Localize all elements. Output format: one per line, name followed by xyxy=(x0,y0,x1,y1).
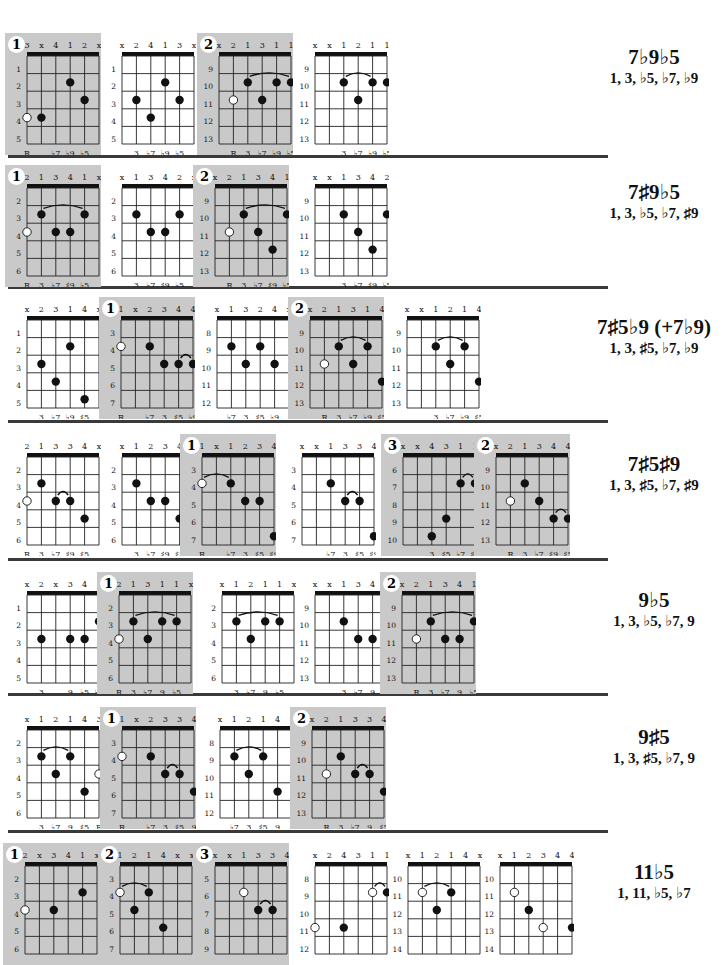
nut-bar xyxy=(315,862,387,866)
finger-dot xyxy=(370,532,376,540)
finger-dot xyxy=(270,360,278,368)
fret-number: 5 xyxy=(16,518,21,527)
finger-label: x xyxy=(39,41,44,50)
chord-diagram: xx12119101112133♭7♭9♭5 xyxy=(293,33,389,155)
finger-dot xyxy=(245,770,253,778)
finger-label: 2 xyxy=(39,580,44,589)
finger-dot xyxy=(52,377,60,385)
fret-number: 4 xyxy=(16,117,21,126)
finger-label: 3 xyxy=(53,442,58,451)
finger-label: 4 xyxy=(565,442,570,451)
finger-label: x xyxy=(215,305,220,314)
fret-number: 4 xyxy=(111,117,116,126)
fret-number: 7 xyxy=(291,536,296,545)
chord-diagram: 21214xx34567 xyxy=(98,843,194,965)
chord-formula: 1, 11, ♭5, ♭7 xyxy=(584,884,724,902)
finger-label: x xyxy=(400,580,405,589)
finger-label: 4 xyxy=(341,851,346,860)
fret-number: 10 xyxy=(391,346,401,355)
interval-label: 3 xyxy=(39,550,44,556)
finger-dot xyxy=(456,479,464,487)
finger-label: 1 xyxy=(119,715,124,724)
finger-dot xyxy=(161,78,169,86)
fret-number: 3 xyxy=(14,892,19,901)
finger-dot xyxy=(244,78,252,86)
finger-dot xyxy=(147,113,155,121)
interval-label: 3 xyxy=(245,149,250,155)
finger-label: x xyxy=(37,851,42,860)
interval-label: R xyxy=(413,688,420,694)
finger-dot xyxy=(355,497,363,505)
finger-label: 1 xyxy=(131,580,136,589)
interval-label: ♯5 xyxy=(255,550,264,556)
chord-diagram: 2x21341910111213R3♭7♯9♭5 xyxy=(193,165,289,287)
finger-label: 1 xyxy=(82,173,87,182)
fret-number: 6 xyxy=(392,466,397,475)
interval-label: 3 xyxy=(428,688,433,694)
fret-number: 13 xyxy=(484,927,494,936)
finger-dot xyxy=(37,113,45,121)
finger-label: x xyxy=(25,305,30,314)
finger-label: 1 xyxy=(117,851,122,860)
chord-diagram: 2x21314910111213R3♭7♭9♯5 xyxy=(288,297,384,419)
fret-number: 5 xyxy=(111,135,116,144)
root-dot xyxy=(23,113,31,121)
finger-dot xyxy=(256,342,264,350)
finger-label: 3 xyxy=(68,580,73,589)
interval-label: R xyxy=(199,550,206,556)
fret-number: 4 xyxy=(109,892,114,901)
finger-dot xyxy=(159,923,167,931)
finger-label: 3 xyxy=(351,305,356,314)
fret-number: 5 xyxy=(16,135,21,144)
interval-label: 3 xyxy=(336,413,341,419)
fret-number: 11 xyxy=(299,232,309,241)
finger-dot xyxy=(80,395,88,403)
interval-label: ♭5 xyxy=(383,149,389,155)
finger-label: x xyxy=(313,580,318,589)
fret-number: 11 xyxy=(299,100,309,109)
finger-dot xyxy=(433,906,441,914)
finger-label: 3 xyxy=(257,442,262,451)
finger-label: 2 xyxy=(243,442,248,451)
fret-number: 10 xyxy=(392,875,402,884)
finger-label: 3 xyxy=(177,715,182,724)
finger-label: x xyxy=(120,173,125,182)
finger-label: 2 xyxy=(132,851,137,860)
interval-label: 3 xyxy=(39,688,44,694)
chord-name: 11♭5 xyxy=(584,860,724,884)
fret-number: 10 xyxy=(480,483,490,492)
fret-number: 5 xyxy=(211,656,216,665)
finger-label: 3 xyxy=(270,851,275,860)
finger-label: 3 xyxy=(343,442,348,451)
interval-label: ♭5 xyxy=(283,281,289,287)
interval-label: 3 xyxy=(341,149,346,155)
fret-number: 5 xyxy=(110,364,115,373)
finger-dot xyxy=(190,787,196,795)
finger-label: x xyxy=(419,305,424,314)
finger-label: 4 xyxy=(370,580,375,589)
interval-label: ♯9 xyxy=(66,281,75,287)
fret-number: 12 xyxy=(203,117,213,126)
finger-label: 2 xyxy=(147,305,152,314)
fret-number: 6 xyxy=(16,536,21,545)
finger-label: 1 xyxy=(118,305,123,314)
interval-label: 9 xyxy=(263,688,268,694)
interval-label: ♭7 xyxy=(230,823,239,829)
finger-label: 3 xyxy=(541,851,546,860)
fret-number: 4 xyxy=(14,910,19,919)
finger-dot xyxy=(261,617,269,625)
nut-bar xyxy=(122,726,194,730)
interval-label: ♭5 xyxy=(383,281,389,287)
fret-number: 13 xyxy=(299,135,309,144)
interval-label: ♭7 xyxy=(254,281,263,287)
root-dot xyxy=(418,888,426,896)
finger-label: 2 xyxy=(327,851,332,860)
finger-dot xyxy=(161,228,169,236)
finger-dot xyxy=(447,888,455,896)
finger-label: x xyxy=(310,715,315,724)
interval-label: ♭7 xyxy=(446,413,455,419)
fret-number: 11 xyxy=(204,791,214,800)
finger-dot xyxy=(80,210,88,218)
root-dot xyxy=(118,752,126,760)
finger-label: 2 xyxy=(24,442,29,451)
